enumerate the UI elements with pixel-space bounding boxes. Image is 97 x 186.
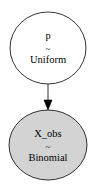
node-x-obs: X_obs ~ Binomial bbox=[9, 110, 87, 180]
node-x-obs-tilde: ~ bbox=[46, 142, 51, 152]
arrowhead-icon bbox=[44, 100, 52, 110]
model-graph: p ~ Uniform X_obs ~ Binomial bbox=[0, 0, 97, 186]
node-x-obs-distribution: Binomial bbox=[28, 152, 67, 163]
node-p-distribution: Uniform bbox=[30, 54, 66, 65]
node-p: p ~ Uniform bbox=[10, 12, 86, 84]
edge-p-to-x-obs bbox=[44, 84, 52, 110]
node-p-name: p bbox=[45, 30, 50, 41]
node-x-obs-name: X_obs bbox=[34, 128, 61, 139]
node-p-tilde: ~ bbox=[46, 44, 51, 54]
